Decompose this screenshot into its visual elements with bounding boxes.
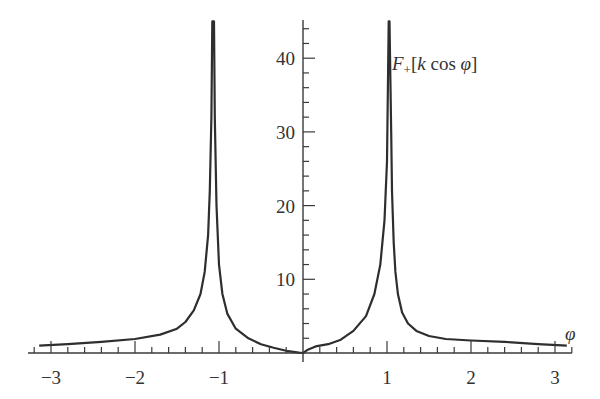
function-label-subscript: + [404,62,411,77]
x-tick-label: 3 [550,367,560,388]
x-axis-label: φ [565,323,576,344]
chart-figure: −3−2−1123 10203040 F+[k cos φ] φ [0,0,600,399]
function-label-phi: φ [461,53,472,74]
y-tick-label: 20 [276,196,295,217]
function-label: F+[k cos φ] [391,53,477,77]
function-label-F: F [391,53,404,74]
x-tick-label: −3 [41,367,61,388]
y-ticks [303,29,315,339]
x-tick-labels: −3−2−1123 [41,367,560,388]
y-tick-label: 10 [276,269,295,290]
function-label-cos: cos [426,53,461,74]
axes [28,20,572,362]
x-tick-label: 2 [466,367,476,388]
x-tick-label: −2 [125,367,145,388]
y-tick-labels: 10203040 [276,48,295,290]
function-label-bracket-close: ] [471,53,477,74]
y-tick-label: 40 [276,48,295,69]
y-tick-label: 30 [276,122,295,143]
x-tick-label: 1 [382,367,392,388]
x-tick-label: −1 [209,367,229,388]
